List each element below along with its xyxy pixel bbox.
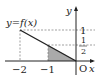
function-graph: y=f(x) y x O 1 1 2 −2 −1 bbox=[0, 0, 97, 78]
y-tick-one: 1 bbox=[80, 25, 86, 36]
origin-label: O bbox=[79, 63, 87, 74]
x-axis-label: x bbox=[89, 63, 95, 74]
x-tick-minus-one: −1 bbox=[40, 64, 55, 75]
y-tick-half-numerator: 1 bbox=[81, 36, 86, 45]
x-tick-minus-two: −2 bbox=[12, 64, 27, 75]
y-axis-arrow-icon bbox=[74, 6, 78, 11]
function-label: y=f(x) bbox=[5, 17, 37, 28]
y-axis-label: y bbox=[65, 5, 72, 16]
y-tick-half-denominator: 2 bbox=[81, 47, 86, 56]
